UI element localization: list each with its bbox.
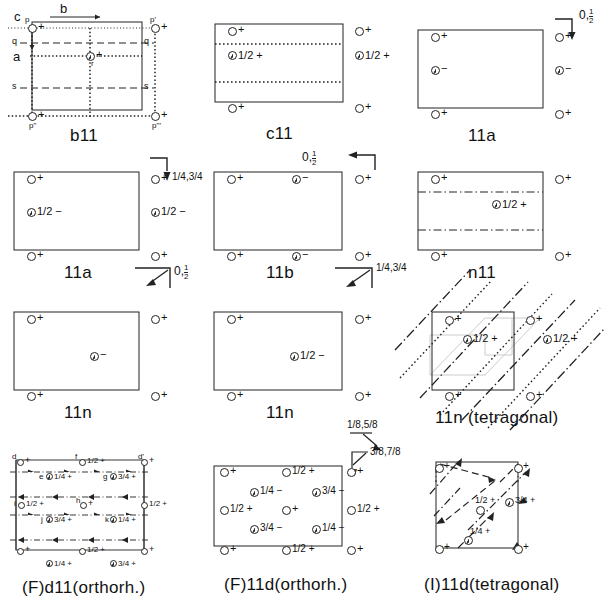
atom-sign: + bbox=[37, 249, 43, 260]
atom-sign: 3/4 + bbox=[515, 496, 535, 505]
atom-marker bbox=[151, 175, 160, 184]
atom-marker bbox=[282, 546, 291, 555]
panel-Fd11-graphics bbox=[0, 420, 200, 601]
atom-marker-comma bbox=[290, 352, 299, 361]
axis-label-c: c bbox=[14, 10, 21, 23]
atom-marker bbox=[80, 502, 87, 509]
atom-sign: + bbox=[365, 312, 371, 323]
atom-sign: + bbox=[455, 389, 461, 400]
atom-marker-comma bbox=[86, 52, 95, 61]
atom-marker bbox=[27, 315, 36, 324]
atom-marker bbox=[141, 502, 148, 509]
atom-marker bbox=[227, 252, 236, 261]
atom-marker bbox=[355, 27, 364, 36]
atom-sign: + bbox=[37, 312, 43, 323]
panel-11n-left: 0,12 + + − + + 11n bbox=[0, 290, 200, 420]
atom-marker bbox=[555, 252, 564, 261]
atom-marker bbox=[27, 175, 36, 184]
annotation-eighth-fiveeighth: 1/8,5/8 bbox=[347, 420, 378, 430]
atom-marker bbox=[355, 175, 364, 184]
point-label-s-right: s bbox=[144, 82, 149, 91]
atom-marker bbox=[355, 392, 364, 401]
panel-F11d-orthorh: 1/8,5/8 3/8,7/8 + 1/2 + + 1/4 − 3/4 − 1/… bbox=[200, 420, 410, 601]
atom-marker bbox=[555, 110, 564, 119]
point-label-q-left: q bbox=[12, 37, 17, 46]
atom-marker bbox=[220, 468, 229, 477]
atom-sign: + bbox=[161, 312, 167, 323]
atom-marker bbox=[555, 175, 564, 184]
atom-sign: 3/4 − bbox=[260, 523, 283, 533]
atom-marker bbox=[27, 392, 36, 401]
atom-marker bbox=[282, 468, 291, 477]
atom-marker-comma bbox=[555, 66, 564, 75]
atom-sign: + bbox=[161, 249, 167, 260]
atom-marker-comma bbox=[431, 66, 440, 75]
atom-sign: 1/2 + bbox=[292, 544, 315, 554]
atom-marker bbox=[347, 468, 356, 477]
atom-marker bbox=[282, 506, 291, 515]
atom-marker bbox=[151, 252, 160, 261]
atom-sign: 1/2 + bbox=[553, 333, 578, 344]
atom-sign: + bbox=[441, 172, 447, 183]
atom-sign: + bbox=[38, 21, 44, 32]
atom-sign: 1/2 + bbox=[230, 504, 253, 514]
point-label-k: k bbox=[105, 516, 109, 524]
point-label-p: p bbox=[25, 16, 29, 24]
atom-marker bbox=[18, 502, 25, 509]
panel-caption: 11a bbox=[64, 263, 92, 283]
atom-sign: 1/2 + bbox=[87, 457, 105, 465]
atom-sign: 3/4 + bbox=[54, 516, 72, 524]
atom-sign: − bbox=[302, 249, 308, 260]
point-label-q-right: q bbox=[144, 37, 149, 46]
panel-caption: b11 bbox=[70, 126, 98, 146]
atom-sign: + bbox=[238, 24, 244, 35]
atom-sign: 1/2 + bbox=[238, 50, 263, 61]
atom-sign: 1/2 + bbox=[292, 466, 315, 476]
fraction-denominator: 2 bbox=[312, 159, 316, 167]
atom-sign: 1/2 − bbox=[37, 206, 62, 217]
atom-marker bbox=[27, 252, 36, 261]
atom-sign: + bbox=[161, 109, 167, 120]
atom-sign: + bbox=[292, 503, 298, 514]
atom-sign: + bbox=[161, 389, 167, 400]
atom-marker-comma bbox=[228, 51, 237, 60]
atom-sign: + bbox=[444, 542, 450, 552]
panel-11b: 0,12 + − + + − + 11b bbox=[200, 150, 410, 300]
fraction-denominator: 2 bbox=[589, 17, 593, 25]
point-label-f: f bbox=[75, 453, 77, 461]
atom-sign: 1/2 + bbox=[149, 500, 167, 508]
atom-sign: + bbox=[96, 49, 102, 60]
atom-sign: + bbox=[230, 465, 236, 476]
atom-marker bbox=[17, 548, 24, 555]
atom-marker bbox=[220, 506, 229, 515]
atom-sign: 1/2 + bbox=[473, 333, 498, 344]
atom-sign: 1/2 − bbox=[300, 350, 325, 361]
panel-c11: + + 1/2 + 1/2 + + + c11 bbox=[200, 0, 400, 150]
atom-marker bbox=[141, 459, 148, 466]
atom-sign: 1/4 + bbox=[118, 516, 136, 524]
panel-n11-graphics bbox=[400, 150, 611, 290]
atom-sign: + bbox=[536, 389, 542, 400]
atom-sign: + bbox=[365, 24, 371, 35]
atom-marker-comma bbox=[46, 473, 53, 480]
atom-marker-comma bbox=[151, 208, 160, 217]
atom-marker-comma bbox=[250, 525, 259, 534]
atom-sign: + bbox=[455, 313, 461, 324]
atom-marker bbox=[228, 104, 237, 113]
atom-sign: + bbox=[523, 461, 529, 471]
atom-marker-comma bbox=[355, 51, 364, 60]
atom-sign: + bbox=[565, 107, 571, 118]
atom-sign: + bbox=[441, 249, 447, 260]
atom-sign: + bbox=[365, 172, 371, 183]
atom-marker bbox=[435, 545, 444, 554]
atom-marker bbox=[228, 27, 237, 36]
atom-marker bbox=[347, 546, 356, 555]
atom-sign: − bbox=[441, 63, 447, 74]
point-label-g: g bbox=[103, 473, 107, 481]
atom-marker bbox=[79, 459, 86, 466]
panel-caption: (F)d11(orthorh.) bbox=[22, 578, 146, 598]
atom-marker bbox=[151, 392, 160, 401]
panel-b11: c b a p p' p" p''' q q s s r + + + + + b… bbox=[0, 0, 200, 150]
atom-sign: + bbox=[237, 312, 243, 323]
atom-marker bbox=[355, 104, 364, 113]
